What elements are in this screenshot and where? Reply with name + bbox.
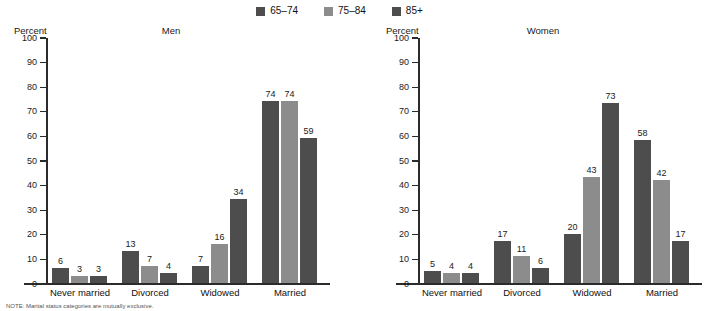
bar[interactable] bbox=[443, 273, 460, 283]
y-axis-tick bbox=[40, 87, 46, 88]
bar-value-label: 6 bbox=[526, 257, 555, 266]
panel-title-men: Men bbox=[6, 26, 336, 36]
bar[interactable] bbox=[211, 244, 228, 283]
bar-column[interactable]: 4 bbox=[462, 37, 479, 283]
bar[interactable] bbox=[602, 103, 619, 283]
legend-item: 75–84 bbox=[324, 6, 366, 16]
bar[interactable] bbox=[262, 101, 279, 283]
x-axis-category-label: Married bbox=[245, 287, 335, 298]
y-axis-tick-label: 20 bbox=[6, 230, 37, 239]
legend-item: 85+ bbox=[392, 6, 423, 16]
y-axis-tick bbox=[412, 62, 418, 63]
y-axis-tick bbox=[412, 136, 418, 137]
y-axis-tick bbox=[412, 160, 418, 161]
y-axis-tick-label: 70 bbox=[6, 107, 37, 116]
bar[interactable] bbox=[564, 234, 581, 283]
y-axis-tick-label: 30 bbox=[378, 206, 409, 215]
x-axis-line bbox=[396, 283, 702, 285]
y-axis-tick-label: 100 bbox=[378, 34, 409, 43]
bar-column[interactable]: 43 bbox=[583, 37, 600, 283]
bar-group-bars: 633 bbox=[52, 37, 107, 283]
y-axis-tick-label: 30 bbox=[6, 206, 37, 215]
y-axis-line bbox=[418, 38, 420, 284]
bar-column[interactable]: 4 bbox=[160, 37, 177, 283]
bar-group-bars: 17116 bbox=[494, 37, 549, 283]
bar-column[interactable]: 4 bbox=[443, 37, 460, 283]
bar-group-bars: 747459 bbox=[262, 37, 317, 283]
bar-column[interactable]: 74 bbox=[262, 37, 279, 283]
bar[interactable] bbox=[230, 199, 247, 283]
y-axis-tick-label: 80 bbox=[6, 83, 37, 92]
bar-group-bars: 584217 bbox=[634, 37, 689, 283]
bar[interactable] bbox=[71, 276, 88, 283]
y-axis-tick bbox=[40, 160, 46, 161]
y-axis-tick-label: 100 bbox=[6, 34, 37, 43]
bar-column[interactable]: 16 bbox=[211, 37, 228, 283]
y-axis-tick bbox=[40, 37, 46, 38]
bar[interactable] bbox=[634, 140, 651, 283]
bar-column[interactable]: 6 bbox=[52, 37, 69, 283]
bar-value-label: 4 bbox=[456, 262, 485, 271]
bar-value-label: 73 bbox=[596, 92, 625, 101]
bar-column[interactable]: 17 bbox=[672, 37, 689, 283]
bar-value-label: 34 bbox=[224, 188, 253, 197]
chart-legend: 65–7475–8485+ bbox=[0, 6, 679, 16]
bar-column[interactable]: 59 bbox=[300, 37, 317, 283]
bar-column[interactable]: 13 bbox=[122, 37, 139, 283]
bar-value-label: 59 bbox=[294, 127, 323, 136]
chart-footnote: NOTE: Marital status categories are mutu… bbox=[6, 303, 666, 310]
bar-column[interactable]: 3 bbox=[71, 37, 88, 283]
bar-column[interactable]: 34 bbox=[230, 37, 247, 283]
bar-group-bars: 204373 bbox=[564, 37, 619, 283]
y-axis-tick-label: 40 bbox=[378, 181, 409, 190]
bar[interactable] bbox=[160, 273, 177, 283]
bar-column[interactable]: 7 bbox=[192, 37, 209, 283]
y-axis-tick-label: 80 bbox=[378, 83, 409, 92]
bar[interactable] bbox=[583, 177, 600, 283]
y-axis-tick bbox=[40, 210, 46, 211]
legend-swatch-icon bbox=[256, 7, 265, 16]
bar-column[interactable]: 73 bbox=[602, 37, 619, 283]
bar-value-label: 4 bbox=[154, 262, 183, 271]
bar-column[interactable]: 11 bbox=[513, 37, 530, 283]
chart-panel-men: Percent Men 0102030405060708090100633Nev… bbox=[6, 26, 336, 301]
y-axis-tick bbox=[412, 234, 418, 235]
y-axis-tick-label: 90 bbox=[378, 58, 409, 67]
bar-column[interactable]: 3 bbox=[90, 37, 107, 283]
y-axis-tick bbox=[40, 283, 46, 284]
legend-label: 75–84 bbox=[338, 6, 366, 16]
legend-label: 85+ bbox=[406, 6, 423, 16]
plot-area-women: 0102030405060708090100544Never married17… bbox=[378, 38, 706, 288]
bar[interactable] bbox=[532, 268, 549, 283]
bar[interactable] bbox=[424, 271, 441, 283]
bar-value-label: 3 bbox=[84, 265, 113, 274]
y-axis-tick bbox=[412, 87, 418, 88]
bar-column[interactable]: 6 bbox=[532, 37, 549, 283]
legend-swatch-icon bbox=[392, 7, 401, 16]
y-axis-tick bbox=[40, 234, 46, 235]
bar-column[interactable]: 74 bbox=[281, 37, 298, 283]
y-axis-tick bbox=[412, 111, 418, 112]
y-axis-tick-label: 10 bbox=[6, 255, 37, 264]
y-axis-tick bbox=[412, 185, 418, 186]
bar-column[interactable]: 5 bbox=[424, 37, 441, 283]
y-axis-tick bbox=[412, 210, 418, 211]
y-axis-tick-label: 70 bbox=[378, 107, 409, 116]
y-axis-tick-label: 60 bbox=[6, 132, 37, 141]
bar-group-bars: 544 bbox=[424, 37, 479, 283]
bar[interactable] bbox=[90, 276, 107, 283]
bar-column[interactable]: 58 bbox=[634, 37, 651, 283]
bar[interactable] bbox=[300, 138, 317, 283]
y-axis-tick-label: 60 bbox=[378, 132, 409, 141]
bar[interactable] bbox=[192, 266, 209, 283]
y-axis-tick bbox=[40, 185, 46, 186]
bar-column[interactable]: 20 bbox=[564, 37, 581, 283]
bar[interactable] bbox=[672, 241, 689, 283]
y-axis-tick-label: 90 bbox=[6, 58, 37, 67]
y-axis-tick-label: 0 bbox=[378, 280, 409, 289]
y-axis-tick bbox=[40, 111, 46, 112]
bar-column[interactable]: 42 bbox=[653, 37, 670, 283]
bar-column[interactable]: 7 bbox=[141, 37, 158, 283]
bar[interactable] bbox=[462, 273, 479, 283]
legend-label: 65–74 bbox=[270, 6, 298, 16]
